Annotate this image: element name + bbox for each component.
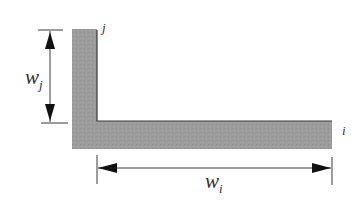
arrow-down-icon (45, 104, 55, 121)
l-shape-diagram: j i wj wi (0, 0, 362, 212)
w-i-symbol: w (205, 169, 219, 193)
arrow-right-icon (312, 163, 331, 173)
l-shape-fill (72, 29, 332, 149)
label-i: i (342, 123, 346, 138)
label-j: j (100, 20, 106, 35)
l-shape (72, 29, 332, 149)
inner-edge (97, 30, 332, 121)
w-i-subscript: i (219, 181, 223, 196)
label-w-j: wj (25, 65, 43, 92)
arrow-left-icon (98, 163, 117, 173)
arrow-up-icon (45, 32, 55, 49)
w-j-symbol: w (25, 65, 39, 89)
label-w-i: wi (205, 169, 223, 196)
